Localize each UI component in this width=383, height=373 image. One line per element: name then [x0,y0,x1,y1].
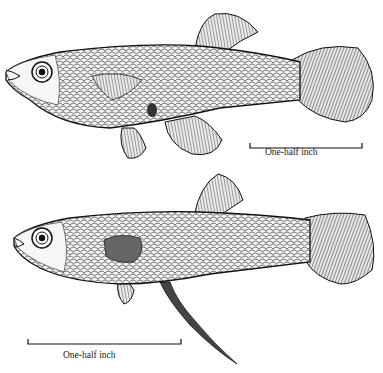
caudal-fin [305,213,374,284]
pelvic-fin [121,128,146,158]
scale-label-top: One-half inch [265,147,318,157]
scale-label-bottom: One-half inch [63,350,116,360]
caudal-fin [292,47,373,123]
female-fish [6,13,373,158]
pectoral-fin [104,235,142,262]
fish-illustration [0,0,383,373]
male-fish [14,174,374,364]
scale-bar-bottom [28,339,181,344]
anal-fin [165,116,222,155]
gonopodium [160,282,237,364]
